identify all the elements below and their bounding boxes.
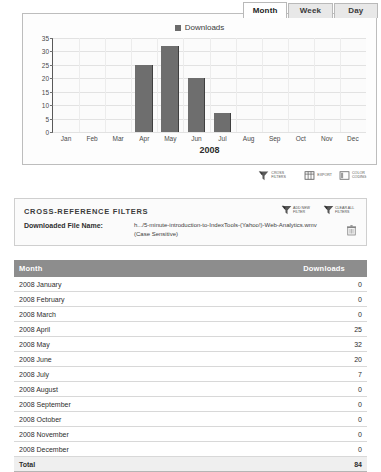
y-axis-tick-label: 15: [42, 88, 49, 95]
table-row[interactable]: 2008 December0: [14, 442, 367, 457]
cell-month: 2008 November: [14, 427, 191, 442]
cross-filters-label: CROSS FILTERS: [271, 171, 297, 179]
x-axis-tick-label: Jun: [183, 135, 209, 142]
chart-bar[interactable]: [188, 78, 206, 132]
filter-field-label: Downloaded File Name:: [24, 221, 134, 229]
x-axis-tick-label: Apr: [131, 135, 157, 142]
cell-downloads: 0: [191, 292, 368, 307]
table-row[interactable]: 2008 May32: [14, 337, 367, 352]
color-coding-button[interactable]: COLOR CODING: [339, 168, 378, 182]
cell-month: 2008 December: [14, 442, 191, 457]
cross-reference-filters-panel: CROSS-REFERENCE FILTERS ADD NEW FILTER C…: [14, 198, 367, 246]
cell-downloads: 0: [191, 427, 368, 442]
export-button[interactable]: EXPORT: [304, 168, 332, 182]
chart-legend: Downloads: [23, 23, 376, 32]
table-row[interactable]: 2008 February0: [14, 292, 367, 307]
cell-downloads: 0: [191, 277, 368, 292]
table-row[interactable]: 2008 July7: [14, 367, 367, 382]
y-axis-tick-label: 35: [42, 35, 49, 42]
downloads-table: Month Downloads 2008 January02008 Februa…: [14, 260, 367, 472]
chart-toolbar: CROSS FILTERS EXPORT COLOR CODING: [240, 168, 378, 182]
bar-slot: [131, 38, 157, 132]
cell-downloads: 32: [191, 337, 368, 352]
bar-slot: [236, 38, 262, 132]
table-row[interactable]: 2008 November0: [14, 427, 367, 442]
bar-slot: [105, 38, 131, 132]
color-coding-icon: [339, 170, 350, 181]
table-header-row: Month Downloads: [14, 260, 367, 277]
x-axis-tick-label: Aug: [236, 135, 262, 142]
table-row[interactable]: 2008 March0: [14, 307, 367, 322]
color-coding-label: COLOR CODING: [352, 171, 378, 179]
chart-bars: [53, 38, 366, 132]
trash-icon: [347, 225, 356, 236]
x-axis-tick-label: Dec: [340, 135, 366, 142]
table-row[interactable]: 2008 June20: [14, 352, 367, 367]
table-total-row: Total84: [14, 457, 367, 472]
chart-plot-wrap: 05101520253035: [53, 38, 366, 133]
cell-downloads: 7: [191, 367, 368, 382]
bar-slot: [314, 38, 340, 132]
clear-all-filters-button[interactable]: CLEAR ALL FILTERS: [323, 204, 359, 215]
cell-month: 2008 January: [14, 277, 191, 292]
cell-month: 2008 July: [14, 367, 191, 382]
x-axis-tick-label: Oct: [288, 135, 314, 142]
clear-all-filters-label: CLEAR ALL FILTERS: [335, 206, 359, 214]
cell-downloads: 0: [191, 412, 368, 427]
cell-month: 2008 April: [14, 322, 191, 337]
table-row[interactable]: 2008 January0: [14, 277, 367, 292]
chart-bar[interactable]: [135, 65, 153, 132]
tab-day[interactable]: Day: [334, 3, 378, 18]
x-axis-tick-label: Mar: [105, 135, 131, 142]
cell-total-label: Total: [14, 457, 191, 472]
delete-filter-button[interactable]: [344, 221, 358, 236]
bar-slot: [157, 38, 183, 132]
cross-reference-filters-title: CROSS-REFERENCE FILTERS: [24, 207, 148, 216]
tab-month[interactable]: Month: [243, 2, 287, 18]
column-header-downloads[interactable]: Downloads: [191, 260, 368, 277]
x-axis-tick-label: Jul: [209, 135, 235, 142]
legend-swatch-downloads: [175, 25, 181, 31]
cell-downloads: 25: [191, 322, 368, 337]
cell-month: 2008 August: [14, 382, 191, 397]
bar-slot: [209, 38, 235, 132]
table-row[interactable]: 2008 October0: [14, 412, 367, 427]
filter-field-value: h.../5-minute-introduction-to-IndexTools…: [134, 221, 344, 238]
bar-slot: [340, 38, 366, 132]
cross-filters-button[interactable]: CROSS FILTERS: [258, 168, 297, 182]
column-header-month[interactable]: Month: [14, 260, 191, 277]
cell-month: 2008 September: [14, 397, 191, 412]
y-axis-tick-label: 20: [42, 75, 49, 82]
y-axis-tick-label: 0: [45, 129, 49, 136]
x-axis-labels: JanFebMarAprMayJunJulAugSepOctNovDec: [53, 135, 366, 142]
x-axis-tick-label: Jan: [53, 135, 79, 142]
tab-week[interactable]: Week: [288, 3, 332, 18]
add-new-filter-button[interactable]: ADD NEW FILTER: [281, 204, 317, 215]
legend-label-downloads: Downloads: [185, 23, 225, 32]
y-axis-tick-label: 5: [45, 115, 49, 122]
bar-slot: [79, 38, 105, 132]
funnel-icon: [258, 170, 269, 181]
table-row[interactable]: 2008 April25: [14, 322, 367, 337]
x-axis-title: 2008: [53, 145, 366, 155]
chart-bar[interactable]: [214, 113, 232, 132]
table-row[interactable]: 2008 August0: [14, 382, 367, 397]
cell-month: 2008 March: [14, 307, 191, 322]
y-axis-tick-mark: [50, 132, 53, 133]
export-icon: [304, 170, 315, 181]
y-axis-tick-label: 30: [42, 48, 49, 55]
clear-filters-icon: [323, 204, 334, 215]
bar-slot: [53, 38, 79, 132]
cell-month: 2008 May: [14, 337, 191, 352]
period-tab-strip: Month Week Day: [243, 2, 379, 18]
gridline-horizontal: [53, 132, 366, 133]
add-new-filter-label: ADD NEW FILTER: [293, 206, 317, 214]
table-row[interactable]: 2008 September0: [14, 397, 367, 412]
x-axis-tick-label: Sep: [262, 135, 288, 142]
chart-bar[interactable]: [161, 46, 179, 132]
chart-plot-area: 05101520253035: [53, 38, 366, 133]
cell-total-value: 84: [191, 457, 368, 472]
cell-downloads: 0: [191, 307, 368, 322]
downloads-chart-panel: Downloads 05101520253035 JanFebMarAprMay…: [22, 13, 377, 165]
filter-case-sensitivity: (Case Sensitive): [134, 230, 338, 239]
